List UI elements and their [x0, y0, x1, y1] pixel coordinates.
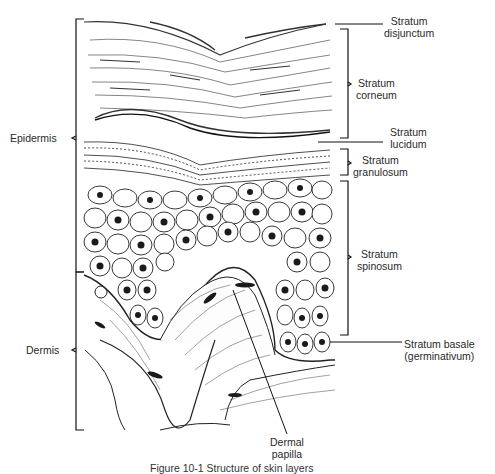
dermis-bracket [72, 272, 84, 430]
label-line: Epidermis [10, 132, 57, 144]
spinosum-bracket [340, 181, 351, 335]
label-line: papilla [270, 448, 304, 460]
figure-caption: Figure 10-1 Structure of skin layers [150, 462, 313, 474]
label-line: Stratum [384, 15, 434, 27]
corneum-bracket [340, 29, 351, 138]
label-line: Stratum basale [404, 338, 475, 350]
stratum-granulosum-region [84, 142, 330, 185]
granulosum-bracket [340, 149, 351, 175]
label-line: corneum [356, 89, 397, 101]
label-line: spinosum [357, 260, 402, 272]
label-dermis: Dermis [26, 344, 59, 356]
label-line: Stratum [390, 126, 427, 138]
label-line: Stratum [356, 77, 397, 89]
label-line: Stratum [357, 248, 402, 260]
label-stratum-spinosum: Stratum spinosum [357, 248, 402, 272]
stratum-corneum-region [84, 22, 332, 134]
label-stratum-disjunctum: Stratum disjunctum [384, 15, 434, 39]
label-stratum-corneum: Stratum corneum [356, 77, 397, 101]
epidermis-bracket [72, 19, 84, 272]
label-dermal-papilla: Dermal papilla [270, 436, 304, 460]
label-line: granulosum [353, 166, 408, 178]
label-line: lucidum [390, 138, 427, 150]
label-stratum-granulosum: Stratum granulosum [353, 154, 408, 178]
label-line: Dermis [26, 344, 59, 356]
label-line: Dermal [270, 436, 304, 448]
label-epidermis: Epidermis [10, 132, 57, 144]
label-stratum-basale: Stratum basale (germinativum) [404, 338, 475, 362]
label-line: Stratum [353, 154, 408, 166]
label-line: (germinativum) [404, 350, 475, 362]
label-line: disjunctum [384, 27, 434, 39]
label-stratum-lucidum: Stratum lucidum [390, 126, 427, 150]
